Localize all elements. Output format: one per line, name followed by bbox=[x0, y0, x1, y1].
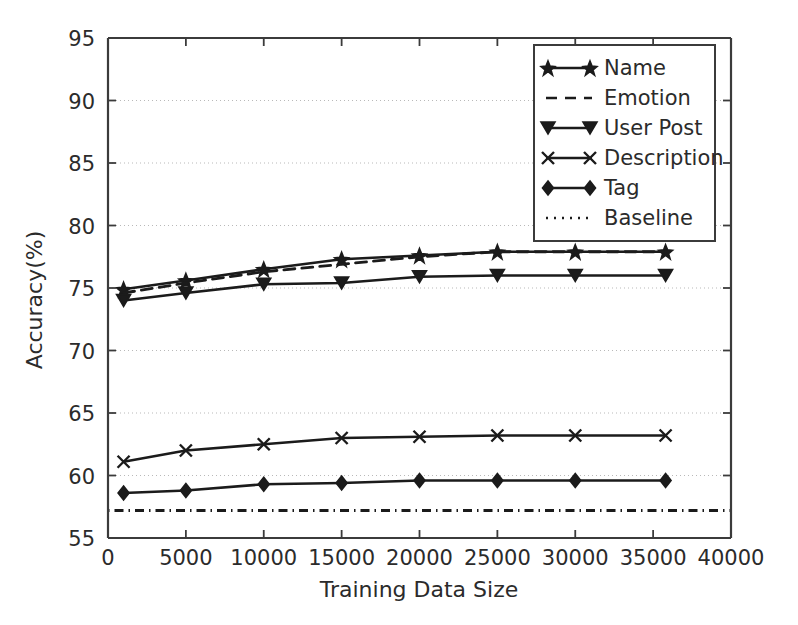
data-point-marker bbox=[258, 477, 269, 491]
x-axis-title: Training Data Size bbox=[319, 577, 518, 602]
legend-label: Tag bbox=[603, 176, 640, 200]
y-tick-label: 85 bbox=[68, 152, 95, 176]
y-tick-label: 90 bbox=[68, 90, 95, 114]
legend-label: Description bbox=[604, 146, 724, 170]
y-axis-title: Accuracy(%) bbox=[22, 231, 47, 370]
y-tick-label: 60 bbox=[68, 465, 95, 489]
series-line bbox=[124, 481, 666, 494]
x-tick-label: 25000 bbox=[464, 546, 531, 570]
x-tick-label: 40000 bbox=[698, 546, 765, 570]
y-tick-label: 65 bbox=[68, 402, 95, 426]
series-emotion bbox=[124, 252, 666, 293]
data-point-marker bbox=[660, 474, 671, 488]
legend-label: Emotion bbox=[604, 86, 691, 110]
x-tick-label: 0 bbox=[101, 546, 114, 570]
data-point-marker bbox=[257, 262, 271, 276]
data-point-marker bbox=[336, 476, 347, 490]
data-point-marker bbox=[180, 484, 191, 498]
x-tick-label: 30000 bbox=[542, 546, 609, 570]
series-line bbox=[124, 252, 666, 293]
y-tick-label: 80 bbox=[68, 215, 95, 239]
series-tag bbox=[118, 474, 671, 501]
y-tick-label: 75 bbox=[68, 277, 95, 301]
chart-figure: 5560657075808590950500010000150002000025… bbox=[0, 0, 798, 625]
series-user-post bbox=[117, 270, 673, 307]
data-point-marker bbox=[179, 274, 193, 288]
series-description bbox=[118, 430, 672, 468]
legend-label: Name bbox=[604, 56, 666, 80]
y-tick-label: 70 bbox=[68, 340, 95, 364]
line-chart: 5560657075808590950500010000150002000025… bbox=[0, 0, 798, 625]
x-tick-label: 35000 bbox=[620, 546, 687, 570]
data-point-marker bbox=[492, 474, 503, 488]
series-line bbox=[124, 436, 666, 462]
legend-label: User Post bbox=[604, 116, 702, 140]
x-tick-label: 15000 bbox=[308, 546, 375, 570]
data-point-marker bbox=[414, 474, 425, 488]
series-layer bbox=[108, 245, 731, 511]
series-line bbox=[124, 252, 666, 290]
data-point-marker bbox=[118, 486, 129, 500]
x-tick-label: 10000 bbox=[230, 546, 297, 570]
y-tick-label: 55 bbox=[68, 527, 95, 551]
chart-legend: NameEmotionUser PostDescriptionTagBaseli… bbox=[534, 45, 724, 241]
x-tick-label: 5000 bbox=[159, 546, 212, 570]
data-point-marker bbox=[570, 474, 581, 488]
legend-label: Baseline bbox=[604, 206, 693, 230]
x-tick-label: 20000 bbox=[386, 546, 453, 570]
y-tick-label: 95 bbox=[68, 27, 95, 51]
